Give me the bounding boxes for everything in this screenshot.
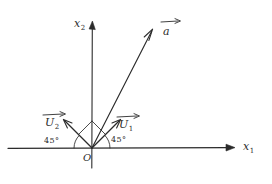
x2-axis-label-subscript: 2 xyxy=(81,24,85,32)
origin-label: O xyxy=(83,153,91,163)
x1-axis-label-subscript: 1 xyxy=(250,147,254,155)
x1-axis-label: x1 xyxy=(243,141,254,155)
vector-u2-label-overarrow-icon xyxy=(42,110,68,119)
figure-canvas xyxy=(0,0,272,184)
vector-u2-label: U2 xyxy=(45,117,59,131)
parallelogram-edge-lower-left xyxy=(79,135,87,143)
vector-u1-label-subscript: 1 xyxy=(129,125,133,133)
vector-u2-label-subscript: 2 xyxy=(55,123,59,131)
vector-a-label: a xyxy=(163,26,170,37)
parallelogram-edge-right xyxy=(92,121,106,135)
parallelogram-edge-left xyxy=(79,121,93,135)
vector-u2-group xyxy=(63,119,92,148)
x1-axis-line xyxy=(8,148,228,149)
right-angle-label: 45° xyxy=(111,136,126,144)
vector-diagram-figure: x2 x1 a U1 U2 45° 45° O xyxy=(0,0,272,184)
x2-axis-arrowhead xyxy=(89,21,95,30)
x1-axis-arrowhead xyxy=(226,144,235,151)
vector-a-label-overarrow-icon xyxy=(160,17,182,26)
x2-axis-label-base: x xyxy=(74,17,80,30)
vector-u1-label: U1 xyxy=(119,119,133,133)
vector-a-label-base: a xyxy=(163,25,170,38)
vector-u1-label-overarrow-icon xyxy=(116,112,142,121)
left-angle-arc xyxy=(74,135,79,148)
x1-axis-line-group xyxy=(8,144,235,151)
right-angle-arc xyxy=(105,135,110,148)
x1-axis-label-base: x xyxy=(243,140,249,153)
left-angle-label: 45° xyxy=(44,137,59,145)
x2-axis-label: x2 xyxy=(74,18,85,32)
